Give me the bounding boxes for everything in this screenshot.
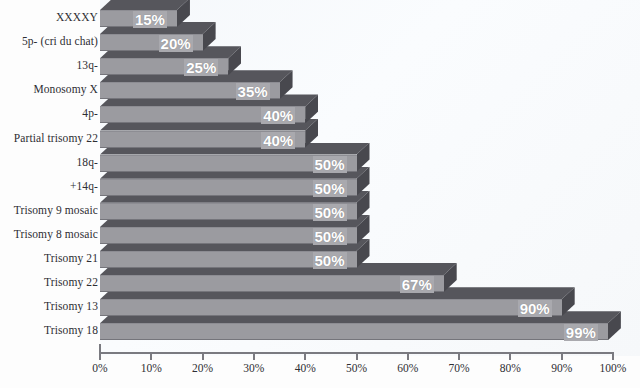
x-tick-mark xyxy=(509,354,511,360)
bar-chart: XXXXY5p- (cri du chat)13q-Monosomy X4p-P… xyxy=(0,0,640,388)
bar-value-label: 15% xyxy=(133,11,167,28)
bars-layer: 99%90%67%50%50%50%50%50%40%40%35%25%20%1… xyxy=(0,0,640,356)
bar-value-label: 50% xyxy=(313,180,347,197)
bar-front-face xyxy=(100,299,562,316)
x-tick-mark xyxy=(458,354,460,360)
x-tick-label: 10% xyxy=(141,362,162,374)
x-tick-mark xyxy=(253,354,255,360)
x-tick-label: 50% xyxy=(346,362,367,374)
bar-value-label: 35% xyxy=(236,83,270,100)
bar-value-label: 50% xyxy=(313,204,347,221)
x-tick-mark xyxy=(99,354,101,360)
bar-value-label: 40% xyxy=(261,107,295,124)
bar-value-label: 99% xyxy=(564,324,598,341)
bar-value-label: 40% xyxy=(261,132,295,149)
x-tick-mark xyxy=(304,354,306,360)
bar-front-face xyxy=(100,275,444,292)
x-tick-label: 30% xyxy=(243,362,264,374)
x-tick-mark xyxy=(612,354,614,360)
x-tick-mark xyxy=(150,354,152,360)
bar-value-label: 90% xyxy=(518,300,552,317)
x-tick-mark xyxy=(561,354,563,360)
x-tick-label: 80% xyxy=(500,362,521,374)
bar-value-label: 50% xyxy=(313,156,347,173)
bar-value-label: 25% xyxy=(184,59,218,76)
x-tick-label: 0% xyxy=(92,362,107,374)
x-tick-label: 20% xyxy=(192,362,213,374)
bar-front-face xyxy=(100,323,608,340)
bar-value-label: 67% xyxy=(400,276,434,293)
x-tick-mark xyxy=(407,354,409,360)
x-tick-mark xyxy=(356,354,358,360)
x-tick-label: 40% xyxy=(295,362,316,374)
bar-value-label: 20% xyxy=(159,35,193,52)
x-tick-label: 100% xyxy=(600,362,627,374)
x-tick-mark xyxy=(202,354,204,360)
bar-value-label: 50% xyxy=(313,252,347,269)
x-tick-label: 90% xyxy=(551,362,572,374)
x-tick-label: 60% xyxy=(397,362,418,374)
x-tick-label: 70% xyxy=(449,362,470,374)
bar-value-label: 50% xyxy=(313,228,347,245)
bar-top-face xyxy=(100,0,190,10)
